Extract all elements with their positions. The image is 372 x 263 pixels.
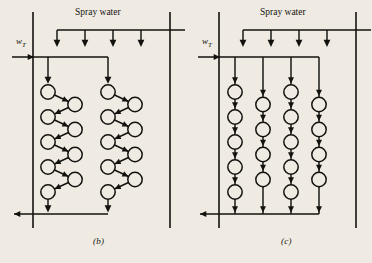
tube-circle-c-0-0: [228, 85, 242, 99]
tube-circle-c-1-1: [256, 122, 270, 136]
outlet-arrow-b: [14, 211, 20, 217]
tube-circle-c-3-1: [312, 122, 326, 136]
tube-circle-b-1-L3: [101, 160, 115, 174]
bank-outlet-arrow-b-1: [105, 205, 112, 212]
column-arrow-c-3-0: [316, 90, 322, 96]
spray-arrow-b-2: [110, 40, 117, 47]
tube-circle-c-3-0: [312, 97, 326, 111]
tube-circle-b-0-L1: [41, 110, 55, 124]
tube-circle-c-2-3: [284, 160, 298, 174]
tube-circle-b-0-R3: [68, 172, 82, 186]
inlet-flow-label-c: wT: [202, 36, 212, 49]
tube-circle-c-0-1: [228, 110, 242, 124]
tube-circle-c-2-4: [284, 185, 298, 199]
column-arrow-c-2-3: [288, 152, 294, 158]
column-arrow-c-0-4: [232, 177, 238, 183]
tube-circle-c-1-0: [256, 97, 270, 111]
column-outlet-arrow-c-3: [316, 206, 322, 212]
tube-circle-c-2-1: [284, 110, 298, 124]
tube-circle-c-2-0: [284, 85, 298, 99]
spray-arrow-c-3: [324, 40, 331, 47]
tube-circle-b-0-L2: [41, 135, 55, 149]
tube-circle-b-1-L4: [101, 185, 115, 199]
column-arrow-c-3-3: [316, 165, 322, 171]
bank-feed-arrow-b-1: [105, 77, 112, 84]
spray-arrow-c-0: [240, 40, 247, 47]
column-outlet-arrow-c-1: [260, 206, 266, 212]
tube-circle-c-1-2: [256, 147, 270, 161]
column-arrow-c-0-2: [232, 127, 238, 133]
tube-circle-b-1-L1: [101, 110, 115, 124]
tube-circle-b-1-R0: [128, 97, 142, 111]
tube-circle-b-1-L0: [101, 85, 115, 99]
column-arrow-c-1-3: [260, 165, 266, 171]
tube-circle-b-0-R2: [68, 147, 82, 161]
tube-circle-c-3-2: [312, 147, 326, 161]
tube-circle-c-0-3: [228, 160, 242, 174]
tube-circle-c-0-4: [228, 185, 242, 199]
column-outlet-arrow-c-2: [288, 206, 294, 212]
tube-circle-b-1-R1: [128, 122, 142, 136]
panel-caption-b: (b): [93, 236, 104, 246]
tube-circle-b-0-R0: [68, 97, 82, 111]
outlet-arrow-c: [200, 211, 206, 217]
tube-circle-b-0-L3: [41, 160, 55, 174]
tube-circle-b-0-R1: [68, 122, 82, 136]
column-arrow-c-2-0: [288, 77, 294, 83]
spray-arrow-b-3: [138, 40, 145, 47]
column-arrow-c-0-3: [232, 152, 238, 158]
tube-circle-b-1-R2: [128, 147, 142, 161]
tube-circle-b-1-L2: [101, 135, 115, 149]
column-arrow-c-0-1: [232, 102, 238, 108]
panel-caption-c: (c): [281, 236, 292, 246]
column-arrow-c-1-1: [260, 115, 266, 121]
spray-arrow-c-2: [296, 40, 303, 47]
column-arrow-c-2-1: [288, 102, 294, 108]
column-arrow-c-1-0: [260, 90, 266, 96]
tube-circle-c-3-3: [312, 172, 326, 186]
inlet-flow-label-b: wT: [16, 36, 26, 49]
figure-spray-water-tube-banks: Spray water Spray water wT wT (b) (c): [0, 0, 372, 263]
schematic-canvas: [0, 0, 372, 263]
tube-circle-b-1-R3: [128, 172, 142, 186]
tube-circle-b-0-L0: [41, 85, 55, 99]
spray-water-label-c: Spray water: [260, 7, 306, 17]
spray-arrow-c-1: [268, 40, 275, 47]
column-arrow-c-3-2: [316, 140, 322, 146]
column-arrow-c-2-4: [288, 177, 294, 183]
tube-circle-c-2-2: [284, 135, 298, 149]
tube-circle-b-0-L4: [41, 185, 55, 199]
spray-water-label-b: Spray water: [75, 7, 121, 17]
column-arrow-c-0-0: [232, 77, 238, 83]
bank-outlet-arrow-b-0: [45, 205, 52, 212]
tube-circle-c-1-3: [256, 172, 270, 186]
column-outlet-arrow-c-0: [232, 206, 238, 212]
column-arrow-c-3-1: [316, 115, 322, 121]
spray-arrow-b-0: [54, 40, 61, 47]
spray-arrow-b-1: [82, 40, 89, 47]
column-arrow-c-1-2: [260, 140, 266, 146]
tube-circle-c-0-2: [228, 135, 242, 149]
column-arrow-c-2-2: [288, 127, 294, 133]
bank-feed-arrow-b-0: [45, 77, 52, 84]
